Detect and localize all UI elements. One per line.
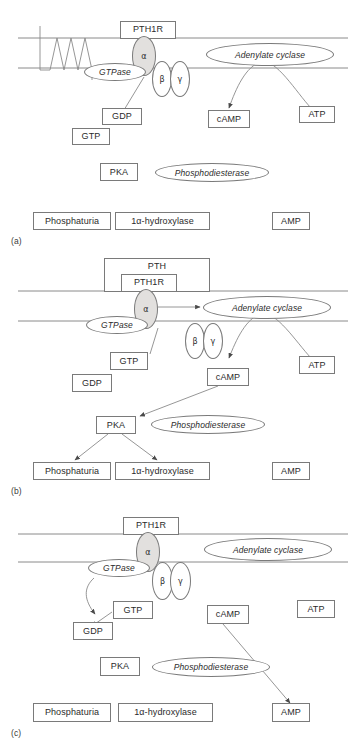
node-label: GDP bbox=[112, 112, 132, 121]
node-phosphodiesterase-a[interactable]: Phosphodiesterase bbox=[155, 163, 269, 182]
atp-to-camp-arrow bbox=[229, 314, 311, 358]
node-label: GTP bbox=[120, 357, 139, 366]
node-amp-c[interactable]: AMP bbox=[272, 703, 310, 722]
node-pka-a[interactable]: PKA bbox=[100, 163, 138, 181]
node-atp-c[interactable]: ATP bbox=[297, 600, 335, 618]
panel-label-b: (b) bbox=[11, 486, 22, 496]
node-label: γ bbox=[211, 337, 216, 346]
node-label: α bbox=[145, 548, 150, 557]
node-phosphaturia-b[interactable]: Phosphaturia bbox=[33, 462, 111, 480]
atp-to-camp-arrow bbox=[229, 62, 311, 108]
node-label: β bbox=[159, 75, 164, 84]
node-camp-a[interactable]: cAMP bbox=[208, 110, 250, 128]
gtpase-to-gdp-arrow bbox=[86, 578, 95, 614]
node-label: PTH bbox=[148, 262, 166, 271]
node-label: γ bbox=[178, 577, 183, 586]
node-label: Phosphaturia bbox=[45, 217, 99, 226]
node-gdp-c[interactable]: GDP bbox=[73, 622, 113, 640]
node-label: ATP bbox=[307, 605, 324, 614]
gdp-alpha-connector bbox=[124, 77, 144, 110]
node-label: AMP bbox=[281, 467, 301, 476]
node-label: GTPase bbox=[101, 320, 133, 330]
node-label: Adenylate cyclase bbox=[232, 303, 302, 313]
node-gtpase-c[interactable]: GTPase bbox=[88, 559, 150, 577]
node-gtp-b[interactable]: GTP bbox=[110, 352, 148, 370]
node-label: GTPase bbox=[99, 67, 131, 77]
node-label: Phosphodiesterase bbox=[175, 168, 249, 178]
node-label: PTH1R bbox=[133, 25, 163, 34]
node-label: α bbox=[141, 52, 146, 61]
node-label: GTP bbox=[82, 132, 101, 141]
node-camp-b[interactable]: cAMP bbox=[207, 368, 249, 386]
gtp-alpha-connector bbox=[150, 328, 158, 354]
node-label: GDP bbox=[82, 379, 102, 388]
node-pka-c[interactable]: PKA bbox=[100, 657, 140, 676]
panel-b: PTH PTH1R α β γ GTPase GTP GDP Adenylate… bbox=[0, 250, 350, 500]
node-phosphaturia-c[interactable]: Phosphaturia bbox=[33, 703, 111, 722]
node-label: Phosphodiesterase bbox=[171, 420, 245, 430]
node-label: GTP bbox=[124, 606, 143, 615]
node-label: PTH1R bbox=[134, 278, 164, 287]
node-phosphodiesterase-b[interactable]: Phosphodiesterase bbox=[151, 415, 265, 434]
node-label: β bbox=[192, 337, 197, 346]
node-hydroxylase-c[interactable]: 1α-hydroxylase bbox=[118, 703, 213, 722]
panel-a: PTH1R α β γ GTPase GDP GTP Adenylate cyc… bbox=[0, 0, 350, 250]
node-pka-b[interactable]: PKA bbox=[96, 416, 136, 434]
node-label: ATP bbox=[308, 361, 325, 370]
node-label: GDP bbox=[83, 627, 103, 636]
node-g-beta-a[interactable]: β bbox=[152, 61, 172, 97]
node-g-gamma-b[interactable]: γ bbox=[203, 323, 223, 359]
node-amp-b[interactable]: AMP bbox=[272, 462, 310, 480]
node-label: PKA bbox=[107, 421, 125, 430]
node-label: 1α-hydroxylase bbox=[131, 467, 194, 476]
pka-to-hydroxylase-arrow bbox=[122, 434, 157, 460]
node-label: β bbox=[160, 577, 165, 586]
node-label: cAMP bbox=[217, 115, 241, 124]
node-label: Adenylate cyclase bbox=[233, 545, 303, 555]
node-gdp-a[interactable]: GDP bbox=[102, 108, 142, 125]
node-label: α bbox=[143, 305, 148, 314]
camp-to-pka-arrow bbox=[140, 386, 218, 416]
node-hydroxylase-b[interactable]: 1α-hydroxylase bbox=[115, 462, 210, 480]
node-label: GTPase bbox=[103, 563, 135, 573]
node-label: γ bbox=[178, 75, 183, 84]
node-hydroxylase-a[interactable]: 1α-hydroxylase bbox=[115, 212, 210, 230]
node-label: Phosphaturia bbox=[45, 467, 99, 476]
node-label: PKA bbox=[110, 168, 128, 177]
node-gdp-b[interactable]: GDP bbox=[72, 374, 112, 392]
node-label: Adenylate cyclase bbox=[235, 50, 305, 60]
node-label: 1α-hydroxylase bbox=[131, 217, 194, 226]
node-label: PTH1R bbox=[136, 521, 166, 530]
node-label: 1α-hydroxylase bbox=[134, 708, 197, 717]
node-label: PKA bbox=[111, 662, 129, 671]
node-amp-a[interactable]: AMP bbox=[272, 212, 310, 230]
node-phosphaturia-a[interactable]: Phosphaturia bbox=[33, 212, 111, 230]
node-gtpase-b[interactable]: GTPase bbox=[86, 316, 148, 334]
node-gtp-c[interactable]: GTP bbox=[113, 601, 153, 619]
node-label: cAMP bbox=[216, 373, 240, 382]
pka-to-phosphaturia-arrow bbox=[75, 434, 108, 460]
node-adenylate-cyclase-a[interactable]: Adenylate cyclase bbox=[206, 43, 334, 66]
node-label: AMP bbox=[281, 217, 301, 226]
node-label: AMP bbox=[281, 708, 301, 717]
node-g-beta-b[interactable]: β bbox=[185, 323, 205, 359]
node-gtp-a[interactable]: GTP bbox=[72, 128, 110, 145]
node-atp-b[interactable]: ATP bbox=[299, 356, 335, 374]
node-camp-c[interactable]: cAMP bbox=[207, 605, 249, 624]
node-label: ATP bbox=[308, 110, 325, 119]
node-atp-a[interactable]: ATP bbox=[299, 106, 335, 123]
panel-label-a: (a) bbox=[11, 236, 22, 246]
node-label: Phosphaturia bbox=[45, 708, 99, 717]
node-gtpase-a[interactable]: GTPase bbox=[84, 63, 146, 81]
panel-label-c: (c) bbox=[11, 728, 21, 738]
node-g-gamma-c[interactable]: γ bbox=[170, 562, 191, 600]
node-phosphodiesterase-c[interactable]: Phosphodiesterase bbox=[152, 657, 270, 677]
node-adenylate-cyclase-b[interactable]: Adenylate cyclase bbox=[203, 296, 331, 319]
node-g-gamma-a[interactable]: γ bbox=[170, 61, 190, 97]
panel-c: PTH1R α β γ GTPase GTP GDP Adenylate cyc… bbox=[0, 500, 350, 742]
node-label: Phosphodiesterase bbox=[174, 662, 248, 672]
node-adenylate-cyclase-c[interactable]: Adenylate cyclase bbox=[204, 538, 332, 561]
node-label: cAMP bbox=[216, 610, 240, 619]
